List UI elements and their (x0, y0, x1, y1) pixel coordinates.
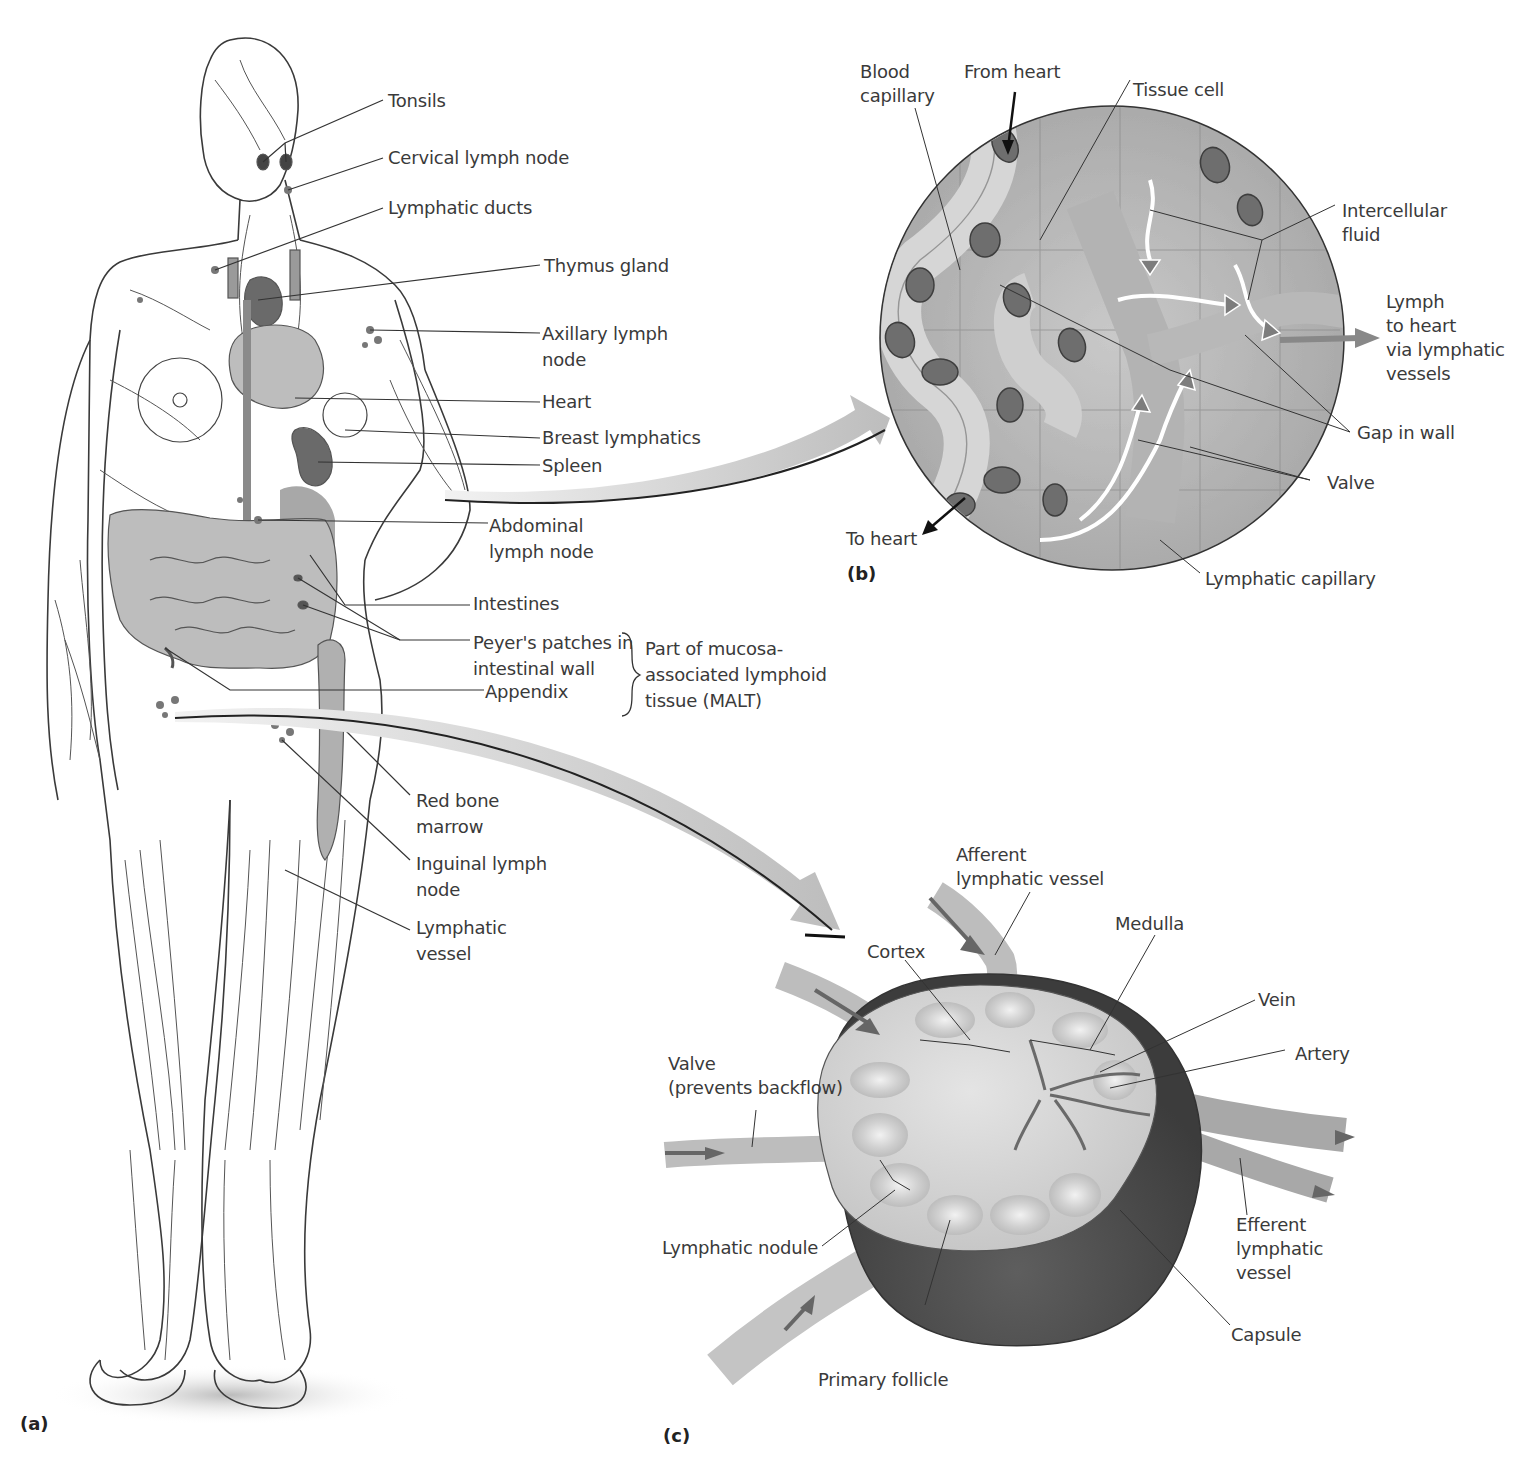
label-tissue-cell: Tissue cell (1133, 78, 1224, 102)
label-intestines: Intestines (473, 592, 559, 616)
tissue-magnification-circle (880, 100, 1345, 580)
label-breast-lymphatics: Breast lymphatics (542, 426, 701, 450)
label-lymphatic-capillary: Lymphatic capillary (1205, 567, 1376, 591)
femur (317, 640, 345, 860)
label-lymph-to-heart: Lymph to heart via lymphatic vessels (1386, 290, 1505, 386)
intestines (108, 509, 337, 668)
label-valve-prevents-backflow: Valve (prevents backflow) (668, 1052, 843, 1100)
label-heart: Heart (542, 390, 591, 414)
label-afferent-lymphatic-vessel: Afferent lymphatic vessel (956, 843, 1104, 891)
label-malt-note: Part of mucosa- associated lymphoid tiss… (645, 636, 827, 714)
label-peyers-patches: Peyer's patches in intestinal wall (473, 630, 633, 682)
label-lymphatic-nodule: Lymphatic nodule (662, 1236, 818, 1260)
label-cervical-lymph-node: Cervical lymph node (388, 146, 569, 170)
label-to-heart: To heart (846, 527, 917, 551)
label-intercellular-fluid: Intercellular fluid (1342, 199, 1447, 247)
spleen (292, 428, 332, 486)
label-capsule: Capsule (1231, 1323, 1302, 1347)
label-thymus-gland: Thymus gland (544, 254, 669, 278)
label-valve: Valve (1327, 471, 1375, 495)
label-efferent-lymphatic-vessel: Efferent lymphatic vessel (1236, 1213, 1323, 1285)
label-gap-in-wall: Gap in wall (1357, 421, 1455, 445)
label-inguinal-lymph-node: Inguinal lymph node (416, 851, 547, 903)
panel-label-a: (a) (20, 1413, 49, 1434)
label-blood-capillary: Blood capillary (860, 60, 935, 108)
label-primary-follicle: Primary follicle (818, 1368, 948, 1392)
panel-label-c: (c) (663, 1425, 690, 1446)
label-medulla: Medulla (1115, 912, 1184, 936)
label-from-heart: From heart (964, 60, 1060, 84)
label-axillary-lymph-node: Axillary lymph node (542, 321, 668, 373)
label-spleen: Spleen (542, 454, 602, 478)
label-lymphatic-ducts: Lymphatic ducts (388, 196, 532, 220)
label-artery: Artery (1295, 1042, 1350, 1066)
label-vein: Vein (1258, 988, 1296, 1012)
label-appendix: Appendix (485, 680, 568, 704)
label-tonsils: Tonsils (388, 89, 446, 113)
panel-label-b: (b) (847, 563, 876, 584)
label-abdominal-lymph-node: Abdominal lymph node (489, 513, 594, 565)
organs (108, 154, 382, 860)
label-cortex: Cortex (867, 940, 925, 964)
label-red-bone-marrow: Red bone marrow (416, 788, 499, 840)
lymph-node-illustration (665, 895, 1355, 1370)
label-lymphatic-vessel: Lymphatic vessel (416, 915, 507, 967)
